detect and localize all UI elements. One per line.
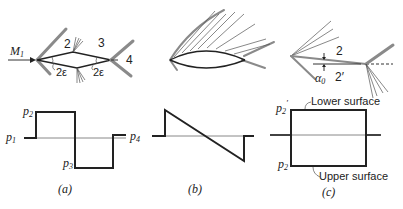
p2-label: p2: [22, 104, 33, 119]
panel-b-pressure-plot: (b): [152, 110, 254, 196]
upper-surface-label: Upper surface: [319, 170, 388, 182]
panel-a-flow-field: M1 2 3 4 2ε 2ε: [8, 29, 133, 83]
leading-shock-lower: [291, 56, 315, 79]
caption-c: (c): [322, 185, 335, 199]
expansion-fan-lower: [77, 68, 85, 83]
p3-label: p3: [62, 156, 73, 171]
caption-b: (b): [188, 182, 202, 196]
arrow-head-icon: [30, 57, 36, 63]
trailing-shock-upper: [366, 45, 393, 64]
region-2-label: 2: [64, 37, 71, 51]
leading-shock-upper: [37, 29, 66, 60]
p4-label: p4: [129, 129, 140, 144]
panel-a-pressure-plot: p1 p2 p3 p4 (a): [5, 104, 140, 196]
p2prime-label: p2′: [275, 98, 289, 116]
biconvex-upper-surface: [170, 51, 245, 60]
p1-label: p1: [5, 130, 16, 145]
angle-label-rear: 2ε: [93, 66, 104, 78]
expansion-fan-leading: [291, 21, 339, 56]
pressure-distribution-a: [24, 112, 126, 168]
alpha-label: α0: [315, 71, 325, 86]
caption-a: (a): [58, 182, 72, 196]
flat-plate: [291, 56, 366, 64]
panel-c-flow-field: 2 α0 2′: [291, 21, 393, 98]
lower-surface-label: Lower surface: [311, 95, 380, 107]
region-2-label: 2: [336, 44, 343, 58]
region-3-label: 3: [98, 36, 105, 50]
biconvex-lower-surface: [170, 60, 245, 68]
region-4-label: 4: [126, 53, 133, 67]
expansion-fan-upper: [73, 37, 83, 52]
mach-label: M1: [9, 44, 24, 59]
region-2prime-label: 2′: [335, 70, 345, 84]
p2-label: p2: [277, 157, 288, 172]
pressure-distribution-c: [291, 110, 366, 166]
panel-c-pressure-plot: p2′ p2 Lower surface Upper surface (c): [270, 95, 388, 199]
trailing-shock-lower: [242, 60, 265, 68]
panel-b-flow-field: [170, 10, 274, 70]
angle-label-front: 2ε: [56, 66, 67, 78]
supersonic-airfoil-diagram: M1 2 3 4 2ε 2ε: [0, 0, 403, 209]
expansion-fan-trailing: [366, 64, 388, 98]
